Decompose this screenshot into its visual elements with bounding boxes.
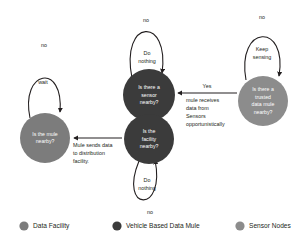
edge-label-yes: Yes (203, 83, 212, 89)
edge-label-mule-receives-3: Sensors (186, 113, 206, 119)
node-trusted-mule-line-3: data mule (252, 101, 275, 107)
legend-swatch-data-facility (19, 221, 28, 230)
node-facility-query-line-1: Is the (143, 128, 156, 134)
edge-label-mule-receives-4: opportunistically (186, 121, 225, 127)
edge-label-facility-self-wait: wait (37, 79, 48, 85)
edge-label-sensor-nothing: nothing (138, 58, 156, 64)
node-facility-line-2: nearby? (36, 138, 55, 144)
edge-label-facility-query-do: Do (144, 177, 151, 183)
state-diagram: Is the mule nearby? Is there a sensor ne… (0, 0, 306, 246)
edge-label-facility-query-no: no (147, 209, 153, 215)
node-facility-query-line-3: nearby? (140, 143, 159, 149)
legend-label-sensor-nodes: Sensor Nodes (249, 222, 291, 229)
legend-swatch-vehicle-based-data-mule (112, 221, 121, 230)
edge-label-facility-self-no: no (41, 42, 47, 48)
edge-label-trusted-keep: Keep (256, 46, 269, 52)
node-trusted-mule-line-4: nearby? (254, 109, 273, 115)
node-sensor-query-line-2: sensor (141, 92, 157, 98)
edge-label-trusted-self-no: no (259, 14, 265, 20)
node-facility-query-line-2: facility (142, 136, 157, 142)
edge-label-mule-sends-3: facility. (73, 158, 89, 164)
legend-item-vehicle-based-data-mule: Vehicle Based Data Mule (112, 221, 200, 230)
node-trusted-mule-line-2: trusted (255, 94, 271, 100)
legend-item-data-facility: Data Facility (19, 221, 70, 230)
diagram-canvas: Is the mule nearby? Is there a sensor ne… (0, 0, 306, 246)
edge-label-mule-receives-2: data from (186, 105, 209, 111)
node-sensor-query-line-3: nearby? (140, 99, 159, 105)
edge-label-mule-receives-1: mule receives (186, 97, 220, 103)
node-trusted-mule-line-1: Is there a (252, 86, 274, 92)
edge-label-facility-query-nothing: nothing (138, 185, 156, 191)
edge-label-trusted-sensing: sensing (253, 54, 272, 60)
legend-swatch-sensor-nodes (235, 221, 244, 230)
edge-label-mule-sends-1: Mule sends data (73, 142, 113, 148)
legend-item-sensor-nodes: Sensor Nodes (235, 221, 291, 230)
legend-label-data-facility: Data Facility (33, 222, 70, 230)
edge-label-sensor-do: Do (144, 50, 151, 56)
legend-label-vehicle-based-data-mule: Vehicle Based Data Mule (126, 222, 200, 229)
edge-label-mule-sends-2: to distribution (73, 150, 105, 156)
node-facility-line-1: Is the mule (32, 131, 57, 137)
node-sensor-query-line-1: Is there a (138, 84, 160, 90)
legend: Data Facility Vehicle Based Data Mule Se… (19, 221, 291, 230)
edge-label-sensor-self-no: no (143, 17, 149, 23)
